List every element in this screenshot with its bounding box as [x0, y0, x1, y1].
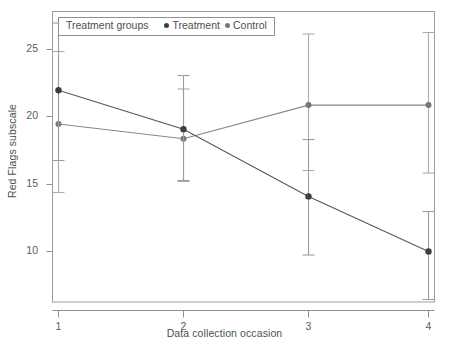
- filled-circle-icon-treatment: [164, 23, 169, 28]
- plot-frame: [53, 12, 435, 303]
- chart-figure: 25 20 15 10 1 2 3 4 Red Flags subscale D…: [0, 0, 449, 348]
- filled-circle-icon-control: [225, 23, 230, 28]
- legend-title: Treatment groups: [66, 20, 148, 32]
- y-axis-title-wrapper: Red Flags subscale: [0, 0, 24, 302]
- y-axis-ticks: [47, 50, 53, 252]
- legend-entry-control[interactable]: Control: [225, 20, 267, 32]
- line-chart-plot: [0, 0, 449, 348]
- legend-label-control: Control: [233, 20, 267, 32]
- chart-legend: Treatment groups Treatment Control: [58, 17, 275, 36]
- legend-entry-treatment[interactable]: Treatment: [164, 20, 219, 32]
- y-axis-title: Red Flags subscale: [6, 104, 18, 198]
- x-axis-ticks: [59, 311, 429, 318]
- legend-label-treatment: Treatment: [172, 20, 219, 32]
- x-axis-title: Data collection occasion: [0, 327, 449, 339]
